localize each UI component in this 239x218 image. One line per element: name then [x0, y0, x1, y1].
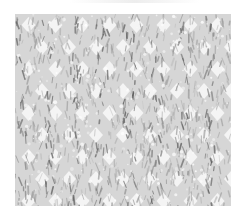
fiber-highlight [210, 175, 211, 176]
yarn-fiber [115, 125, 116, 129]
fiber-highlight [221, 82, 224, 85]
fiber-highlight [103, 168, 105, 170]
fiber-highlight [192, 152, 194, 154]
yarn-fiber [39, 96, 40, 99]
yarn-fiber [119, 24, 120, 28]
fiber-highlight [216, 34, 219, 37]
fiber-highlight [88, 180, 91, 183]
fiber-highlight [165, 196, 167, 198]
fiber-highlight [193, 197, 196, 200]
yarn-fiber [209, 130, 210, 136]
yarn-fiber [230, 35, 231, 39]
fiber-highlight [159, 169, 163, 173]
fiber-highlight [130, 98, 132, 100]
fiber-highlight [48, 21, 51, 24]
yarn-fiber [205, 154, 206, 158]
fiber-highlight [70, 61, 73, 64]
yarn-fiber [144, 91, 145, 98]
fiber-highlight [38, 69, 41, 72]
fiber-highlight [25, 125, 28, 128]
yarn-fiber [103, 148, 104, 155]
fiber-highlight [206, 23, 208, 25]
fiber-highlight [174, 16, 176, 18]
fiber-highlight [161, 148, 165, 152]
fiber-highlight [202, 91, 203, 92]
fiber-highlight [17, 54, 20, 57]
fiber-highlight [127, 164, 128, 165]
yarn-fiber [166, 162, 167, 167]
fiber-highlight [85, 124, 88, 127]
fiber-highlight [170, 46, 173, 49]
yarn-fiber [39, 58, 40, 63]
fiber-highlight [170, 203, 171, 204]
fiber-highlight [142, 138, 143, 139]
fiber-highlight [38, 29, 40, 31]
yarn-fiber [56, 83, 57, 88]
fiber-highlight [157, 178, 159, 180]
fiber-highlight [101, 45, 103, 47]
fiber-highlight [72, 149, 75, 152]
yarn-fiber [136, 45, 137, 52]
fiber-highlight [227, 103, 228, 104]
fiber-highlight [182, 30, 185, 33]
fiber-highlight [205, 175, 207, 177]
yarn-fiber [37, 133, 38, 137]
yarn-fiber [210, 24, 211, 31]
yarn-fiber [72, 126, 73, 132]
yarn-fiber [48, 24, 49, 30]
yarn-fiber [189, 196, 190, 204]
fiber-highlight [146, 71, 148, 73]
fiber-highlight [84, 118, 85, 119]
yarn-fiber [22, 131, 23, 136]
yarn-fiber [52, 29, 53, 34]
yarn-fiber [128, 203, 129, 206]
fiber-highlight [69, 196, 72, 199]
fiber-highlight [18, 200, 20, 202]
fiber-highlight [51, 133, 52, 134]
fiber-highlight [24, 103, 28, 107]
fiber-highlight [172, 152, 176, 156]
fiber-highlight [46, 165, 48, 167]
fiber-highlight [131, 42, 134, 45]
yarn-fiber [73, 53, 74, 61]
yarn-fiber [206, 17, 207, 20]
fiber-highlight [220, 180, 221, 181]
fiber-highlight [86, 79, 89, 82]
yarn-fiber [144, 150, 145, 155]
yarn-fiber [39, 191, 40, 195]
yarn-fiber [211, 178, 212, 185]
yarn-fiber [156, 96, 157, 101]
fiber-highlight [85, 120, 88, 123]
fiber-highlight [56, 72, 58, 74]
yarn-fiber [53, 139, 54, 142]
fiber-highlight [67, 124, 69, 126]
yarn-fiber [178, 172, 179, 175]
yarn-fiber [125, 113, 126, 116]
fiber-highlight [80, 143, 84, 147]
yarn-fiber [46, 124, 47, 127]
fiber-highlight [174, 193, 177, 196]
fiber-highlight [66, 50, 68, 52]
fiber-highlight [173, 40, 175, 42]
fiber-highlight [138, 21, 141, 24]
fiber-highlight [60, 190, 63, 193]
yarn-fiber [78, 58, 79, 62]
fiber-highlight [55, 195, 59, 199]
fiber-highlight [29, 31, 32, 34]
yarn-fiber [111, 149, 112, 157]
fiber-highlight [186, 120, 188, 122]
fiber-highlight [188, 157, 189, 158]
fiber-highlight [78, 75, 81, 78]
fiber-highlight [66, 54, 67, 55]
fiber-highlight [217, 47, 219, 49]
yarn-fiber [95, 70, 96, 73]
yarn-fiber [167, 125, 168, 132]
fiber-highlight [194, 17, 195, 18]
fiber-highlight [46, 80, 48, 82]
fiber-highlight [95, 153, 97, 155]
fiber-highlight [94, 184, 96, 186]
yarn-fiber [26, 135, 27, 143]
yarn-fiber [171, 178, 172, 184]
fiber-highlight [96, 54, 97, 55]
yarn-fiber [34, 108, 35, 112]
